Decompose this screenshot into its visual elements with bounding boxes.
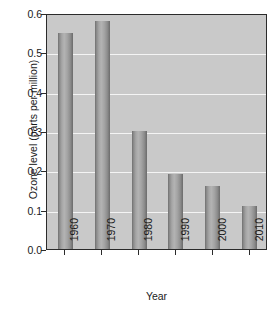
- x-axis-title: Year: [46, 290, 267, 302]
- x-axis-tick-label: 1960: [69, 218, 80, 258]
- gridline: [47, 94, 266, 95]
- x-axis-tick-mark: [138, 250, 139, 255]
- x-axis-tick-label: 1980: [143, 218, 154, 258]
- x-axis-tick-label: 2010: [254, 218, 265, 258]
- x-axis-tick-mark: [175, 250, 176, 255]
- gridline: [47, 212, 266, 213]
- y-axis-tick-label: 0.1: [16, 206, 42, 216]
- x-axis-tick-mark: [101, 250, 102, 255]
- y-axis-tick-label: 0.5: [16, 48, 42, 58]
- x-axis-tick-label: 1970: [106, 218, 117, 258]
- bar: [58, 33, 73, 249]
- plot-area: [46, 14, 267, 250]
- y-axis-tick-label: 0.4: [16, 88, 42, 98]
- y-axis-tick-label: 0.2: [16, 166, 42, 176]
- gridline: [47, 54, 266, 55]
- y-axis-tick-label: 0.3: [16, 127, 42, 137]
- gridline: [47, 172, 266, 173]
- x-axis-tick-label: 1990: [180, 218, 191, 258]
- x-axis-tick-mark: [64, 250, 65, 255]
- y-axis-tick-label: 0.0: [16, 245, 42, 255]
- y-axis-tick-mark: [41, 250, 46, 251]
- x-axis-tick-label: 2000: [217, 218, 228, 258]
- gridline: [47, 133, 266, 134]
- x-axis-tick-mark: [249, 250, 250, 255]
- y-axis-tick-labels: 0.00.10.20.30.40.50.6: [12, 14, 42, 250]
- bar: [95, 21, 110, 249]
- ozone-level-bar-chart: Ozone level (parts per million) 0.00.10.…: [0, 0, 278, 311]
- y-axis-tick-label: 0.6: [16, 9, 42, 19]
- x-axis-tick-mark: [212, 250, 213, 255]
